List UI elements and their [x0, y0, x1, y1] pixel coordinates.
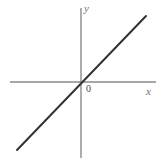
x-axis-label: x — [146, 86, 151, 97]
plot-canvas — [0, 0, 166, 162]
y-axis-label: y — [84, 3, 89, 14]
coordinate-plane-figure: y x 0 — [0, 0, 166, 162]
origin-label: 0 — [86, 84, 91, 94]
